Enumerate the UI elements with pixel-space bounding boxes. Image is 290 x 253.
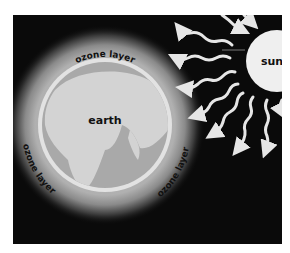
sun-label: sun xyxy=(261,55,283,68)
ray-arrow xyxy=(281,100,283,112)
earth-label: earth xyxy=(88,114,121,127)
ozone-diagram: sun earth ozone layer ozone layer ozone … xyxy=(0,0,290,253)
